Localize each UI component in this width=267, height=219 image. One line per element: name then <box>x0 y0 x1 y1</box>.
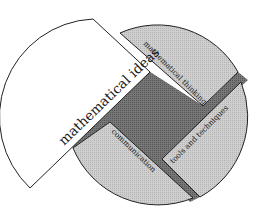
mathematics-framework-diagram: mathematical ideas mathematical thinking… <box>0 0 267 219</box>
